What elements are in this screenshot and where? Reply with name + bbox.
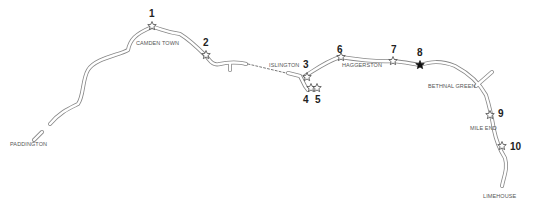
marker-number-9: 9	[498, 108, 504, 119]
place-label-islington: ISLINGTON	[269, 62, 299, 68]
canal-path	[34, 27, 506, 186]
canal-route-map: PADDINGTON CAMDEN TOWN ISLINGTON HAGGERS…	[0, 0, 534, 209]
place-label-bethnal-green: BETHNAL GREEN	[428, 83, 476, 89]
marker-number-2: 2	[203, 37, 209, 48]
place-label-mile-end: MILE END	[470, 125, 497, 131]
marker-number-3: 3	[303, 59, 309, 70]
star-marker-5-icon	[313, 84, 322, 92]
marker-number-6: 6	[337, 44, 343, 55]
marker-number-5: 5	[315, 94, 321, 105]
marker-number-7: 7	[391, 44, 397, 55]
canal-svg	[0, 0, 534, 209]
place-label-camden-town: CAMDEN TOWN	[136, 40, 179, 46]
place-label-paddington: PADDINGTON	[10, 141, 47, 147]
place-label-haggerston: HAGGERSTON	[342, 62, 382, 68]
marker-number-8: 8	[417, 47, 423, 58]
marker-number-4: 4	[303, 94, 309, 105]
marker-number-1: 1	[149, 8, 155, 19]
star-marker-8-filled-icon	[416, 61, 425, 69]
place-label-limehouse: LIMEHOUSE	[483, 193, 516, 199]
marker-number-10: 10	[510, 141, 521, 152]
